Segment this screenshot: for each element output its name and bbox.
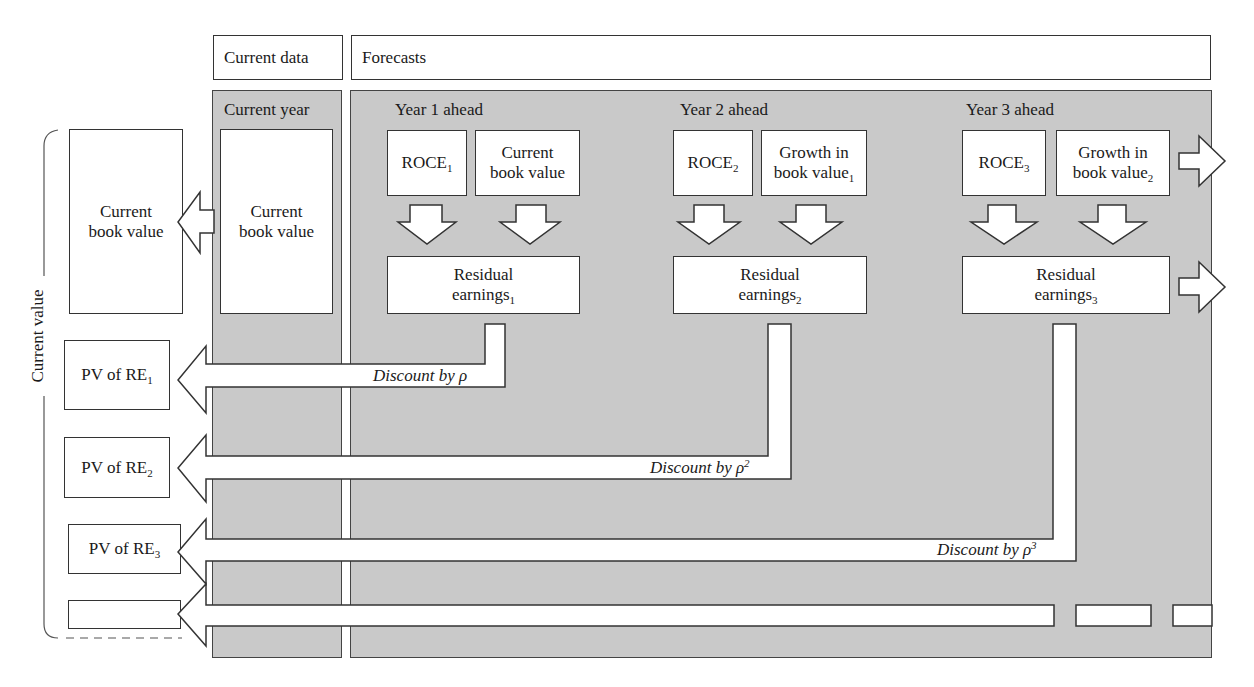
- down-arrow-icon: [1080, 205, 1146, 244]
- down-arrow-icon: [678, 205, 740, 244]
- right-arrow-icon: [1179, 136, 1225, 186]
- discount-2-text: Discount by ρ: [650, 458, 744, 477]
- discount-label-1: Discount by ρ: [373, 366, 467, 386]
- down-arrow-icon: [971, 205, 1037, 244]
- down-arrow-icon: [500, 205, 560, 244]
- discount-3-text: Discount by ρ: [937, 540, 1031, 559]
- current-value-brace: [44, 130, 182, 638]
- right-arrow-icon: [1179, 262, 1225, 312]
- discount-3-sup: 3: [1031, 539, 1037, 551]
- discount-1-text: Discount by ρ: [373, 366, 467, 385]
- current-value-label: Current value: [28, 276, 48, 396]
- down-arrow-icon: [398, 205, 456, 244]
- discount-label-3: Discount by ρ3: [937, 540, 1037, 560]
- discount-2-sup: 2: [744, 457, 750, 469]
- arrows-layer: [0, 0, 1254, 687]
- continuation-segment: [1173, 605, 1212, 626]
- left-arrow-icon: [178, 192, 214, 253]
- down-arrow-icon: [780, 205, 842, 244]
- discount-label-2: Discount by ρ2: [650, 458, 750, 478]
- continuation-arrow: [178, 584, 1054, 646]
- continuation-segment: [1076, 605, 1151, 626]
